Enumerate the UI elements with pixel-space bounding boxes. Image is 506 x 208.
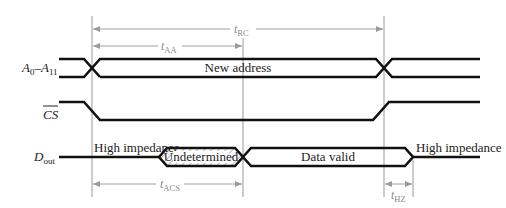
address-bus-label: A0–A11 [21,60,58,77]
undetermined-label: Undetermined [164,149,239,164]
svg-text:tHZ: tHZ [391,188,406,204]
high-impedance-label-right: High impedance [416,140,502,155]
svg-text:tAA: tAA [161,39,177,55]
data-valid-label: Data valid [301,149,355,164]
svg-text:tRC: tRC [234,22,249,38]
t-rc-dimension: tRC [93,22,383,38]
chip-select-signal: CS [43,102,480,122]
t-hz-dimension: tHZ [385,184,412,204]
timing-diagram: tRC tAA A0–A11 New address CS Dout High … [0,0,506,208]
address-bus-signal: A0–A11 New address [21,59,480,77]
svg-text:tACS: tACS [160,177,180,193]
new-address-label: New address [205,60,272,75]
cs-label: CS [43,107,59,122]
t-acs-dimension: tACS [93,177,242,193]
t-aa-dimension: tAA [93,39,242,55]
data-out-signal: Dout High impedance Undetermined Data va… [33,140,502,166]
dout-label: Dout [33,149,55,166]
